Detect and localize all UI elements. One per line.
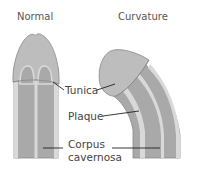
tunica-label: Tunica — [65, 84, 98, 96]
plaque-label: Plaque — [68, 110, 103, 122]
curved-penis-illustration — [99, 50, 180, 158]
corpus-cavernosa-label-line1: Corpus — [68, 138, 105, 150]
normal-penis-illustration — [13, 34, 59, 158]
corpus-cavernosa-label-line2: cavernosa — [68, 151, 122, 163]
